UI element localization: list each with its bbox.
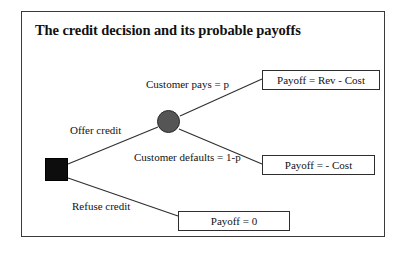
chance-node — [157, 110, 180, 133]
edge-label-customer-pays: Customer pays = p — [146, 78, 229, 90]
edge-label-offer-credit: Offer credit — [70, 124, 121, 136]
decision-tree-figure: The credit decision and its probable pay… — [0, 0, 407, 257]
payoff-box-rev-minus-cost: Payoff = Rev - Cost — [262, 70, 380, 90]
payoff-box-zero: Payoff = 0 — [178, 211, 290, 231]
edge-label-refuse-credit: Refuse credit — [72, 200, 130, 212]
decision-node — [45, 158, 68, 181]
edge-label-customer-defaults: Customer defaults = 1-p — [134, 151, 241, 163]
payoff-box-negative-cost: Payoff = - Cost — [262, 155, 375, 175]
